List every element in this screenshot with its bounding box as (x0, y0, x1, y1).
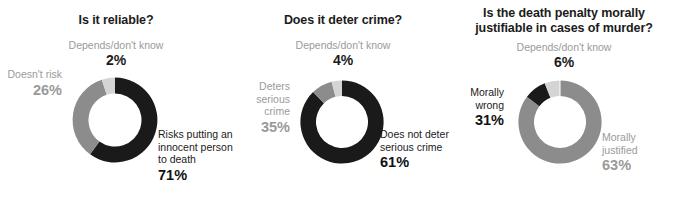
slice-label-text-line2: justified (602, 144, 674, 157)
slice-label-percent: 71% (158, 167, 238, 184)
chart-title-reliable: Is it reliable? (0, 13, 232, 28)
slice-label-percent: 63% (602, 157, 674, 174)
slice-label-percent: 35% (228, 119, 290, 136)
slice-label-text-line1: Risks putting an (158, 128, 238, 141)
donut-segments (300, 80, 383, 163)
donut-svg (62, 67, 168, 173)
slice-label-depends-reliable: Depends/don't know 2% (0, 39, 232, 69)
slice-label-text-line2: serious crime (380, 141, 462, 154)
slice-label-percent: 61% (380, 154, 462, 171)
slice-label-morally-justified: Morally justified 63% (602, 131, 674, 174)
donut-svg (508, 70, 612, 174)
chart-title-line2: justifiable in cases of murder? (475, 21, 653, 35)
donut-chart-reliable (62, 67, 168, 173)
donut-segments (73, 78, 158, 163)
slice-label-doesnt-risk: Doesn't risk 26% (0, 68, 62, 99)
slice-label-text-line2: innocent person (158, 141, 238, 154)
slice-label-text-line2: wrong (448, 99, 504, 112)
chart-title-line1: Is the death penalty morally (483, 6, 645, 20)
slice-label-text-line1: Does not deter (380, 128, 462, 141)
slice-label-percent: 31% (448, 112, 504, 129)
chart-panel-reliable: Is it reliable? Depends/don't know 2% Do… (0, 0, 232, 208)
chart-title-morally-justifiable: Is the death penalty morally justifiable… (454, 6, 674, 36)
slice-label-text: Depends/don't know (454, 41, 674, 53)
slice-label-risks-innocent: Risks putting an innocent person to deat… (158, 128, 238, 184)
slice-label-text-line1: Morally (602, 131, 674, 144)
donut-chart-morally-justifiable (508, 70, 612, 174)
donut-segment-does-not-deter (300, 80, 383, 163)
slice-label-depends-deter: Depends/don't know 4% (232, 39, 454, 69)
slice-label-text: Doesn't risk (0, 68, 62, 81)
slice-label-deters-serious-crime: Deters serious crime 35% (228, 80, 290, 136)
slice-label-text: Depends/don't know (0, 39, 232, 51)
slice-label-text-line2: serious crime (228, 93, 290, 118)
donut-svg (290, 70, 394, 174)
donut-segments (518, 80, 601, 164)
chart-title-deter-crime: Does it deter crime? (232, 13, 454, 28)
slice-label-does-not-deter: Does not deter serious crime 61% (380, 128, 462, 171)
slice-label-percent: 4% (232, 52, 454, 69)
slice-label-percent: 6% (454, 54, 674, 71)
slice-label-text-line3: to death (158, 153, 238, 166)
donut-separator (559, 80, 560, 97)
chart-panel-deter-crime: Does it deter crime? Depends/don't know … (232, 0, 454, 208)
slice-label-text-line1: Morally (448, 86, 504, 99)
donut-chart-deter-crime (290, 70, 394, 174)
slice-label-depends-moral: Depends/don't know 6% (454, 41, 674, 71)
chart-panel-morally-justifiable: Is the death penalty morally justifiable… (454, 0, 674, 208)
slice-label-text-line1: Deters (228, 80, 290, 93)
slice-label-text: Depends/don't know (232, 39, 454, 51)
slice-label-morally-wrong: Morally wrong 31% (448, 86, 504, 129)
slice-label-percent: 26% (0, 82, 62, 99)
